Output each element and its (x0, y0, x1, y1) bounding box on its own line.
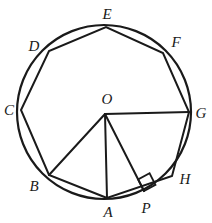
radius-OG (105, 112, 189, 114)
center-label-o: O (102, 92, 113, 107)
vertex-label-a: A (103, 205, 112, 220)
vertex-label-c: C (4, 103, 14, 118)
vertex-label-g: G (196, 106, 207, 121)
vertex-label-d: D (29, 39, 40, 54)
radius-OA (105, 114, 107, 198)
vertex-label-h: H (180, 172, 191, 187)
radius-OB (49, 114, 105, 175)
vertex-label-f: F (171, 35, 180, 50)
geometry-figure: ABCDEFGHOP (0, 0, 212, 223)
vertex-label-e: E (102, 7, 111, 22)
point-label-p: P (141, 201, 150, 216)
vertex-label-b: B (29, 179, 38, 194)
